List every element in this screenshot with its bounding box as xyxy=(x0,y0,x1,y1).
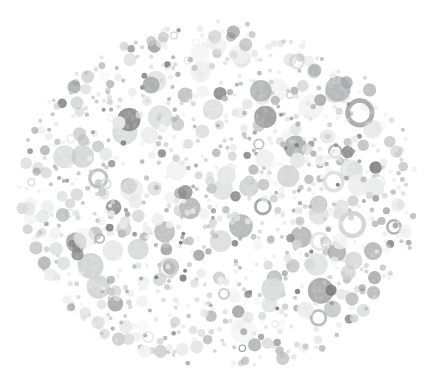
ishihara-plate-container: Ishihara colour vision test plate (grays… xyxy=(0,0,436,392)
ishihara-plate-canvas xyxy=(0,0,436,392)
